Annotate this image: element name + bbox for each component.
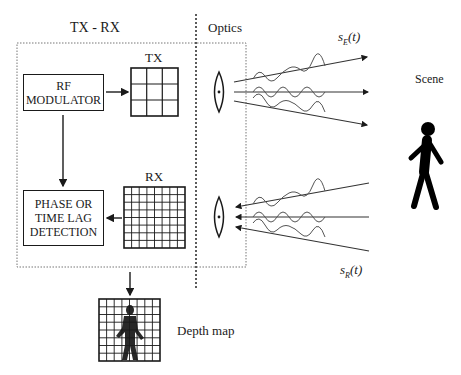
- rx-array-label: RX: [145, 170, 163, 183]
- emitted-waves: [253, 54, 325, 112]
- rx-array-grid: [124, 187, 185, 248]
- tx-lens-icon: [215, 72, 224, 112]
- tx-array-label: TX: [145, 51, 162, 64]
- depth-map-image: [99, 299, 160, 361]
- phase-detection-line2: TIME LAG: [35, 211, 92, 225]
- depth-map-label: Depth map: [177, 324, 234, 337]
- phase-detection-line1: PHASE OR: [35, 197, 93, 211]
- rx-lens-icon: [215, 197, 224, 237]
- phase-detection-block: PHASE OR TIME LAG DETECTION: [23, 190, 104, 246]
- rf-modulator-line1: RF: [56, 79, 71, 93]
- rf-modulator-block: RF MODULATOR: [23, 74, 104, 111]
- person-icon: [411, 122, 441, 207]
- phase-detection-line3: DETECTION: [30, 225, 97, 239]
- rf-modulator-line2: MODULATOR: [26, 93, 101, 107]
- tx-array-grid: [131, 68, 178, 116]
- received-waves: [253, 179, 325, 237]
- diagram-graphics: [0, 0, 461, 375]
- received-rays: [236, 183, 369, 251]
- emitted-signal-label: sE(t): [338, 29, 360, 47]
- received-signal-label: sR(t): [340, 262, 362, 280]
